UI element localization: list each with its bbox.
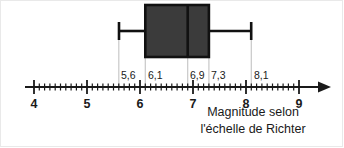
axis-tick-label-4: 4 — [31, 97, 38, 111]
box-rect — [145, 5, 209, 57]
box — [145, 5, 209, 57]
value-label-min: 5,6 — [121, 69, 136, 81]
value-label-median: 6,9 — [190, 69, 205, 81]
value-label-q3: 7,3 — [211, 69, 226, 81]
axis-arrow-head — [318, 82, 331, 93]
x-axis-caption-line-2: l'échelle de Richter — [168, 121, 338, 138]
value-label-q1: 6,1 — [148, 69, 163, 81]
boxplot-figure: 4 5 6 7 8 9 5,6 6,1 6,9 7,3 8,1 Magnitud… — [0, 0, 344, 148]
x-axis-caption-line-1: Magnitude selon — [168, 104, 338, 121]
summary-value-labels: 5,6 6,1 6,9 7,3 8,1 — [121, 69, 269, 81]
axis-tick-label-5: 5 — [84, 97, 91, 111]
axis-tick-label-6: 6 — [137, 97, 144, 111]
value-label-max: 8,1 — [254, 69, 269, 81]
x-axis-caption: Magnitude selon l'échelle de Richter — [168, 104, 338, 138]
